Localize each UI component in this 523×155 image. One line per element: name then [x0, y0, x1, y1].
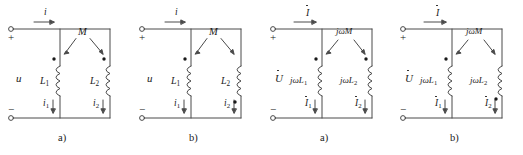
input-current-label: I [436, 8, 439, 18]
coil2-label: L2 [90, 76, 99, 88]
branch2-current-label: I2 [355, 99, 362, 110]
circuit-phasor-domain-b: I + − U jωM jωL1 jωL2 I1 I2 b) [392, 0, 523, 155]
terminal-bottom-circle [140, 116, 145, 121]
dot-marker-coil1 [314, 57, 317, 60]
mutual-inductance-label: jωM [336, 27, 352, 36]
coil2-label: L2 [221, 76, 230, 88]
dot-marker-coil1 [444, 57, 447, 60]
terminal-bottom-circle [9, 116, 14, 121]
branch2-current-label: I2 [485, 99, 492, 110]
input-current-label: I [306, 8, 309, 18]
branch1-current-label: I1 [305, 99, 312, 110]
dot-marker-coil2 [364, 57, 367, 60]
input-current-label: i [44, 8, 47, 18]
polarity-plus-label: + [270, 32, 276, 43]
polarity-minus-label: − [270, 104, 276, 115]
input-current-label: i [175, 8, 178, 18]
source-voltage-label: u [147, 73, 153, 84]
polarity-plus-label: + [139, 32, 145, 43]
terminal-bottom-circle [401, 116, 406, 121]
dot-marker-coil1 [183, 57, 186, 60]
mutual-inductance-label: M [78, 27, 87, 38]
coil1-label: jωL1 [290, 76, 307, 86]
coil2-label: jωL2 [470, 76, 487, 86]
circuit-caption: b) [450, 133, 459, 144]
mutual-inductance-label: jωM [466, 27, 482, 36]
polarity-plus-label: + [8, 32, 14, 43]
branch1-current-label: I1 [435, 99, 442, 110]
circuit-time-domain-a: i + − u M L1 L2 i1 i2 a) [0, 0, 131, 155]
circuit-caption: a) [58, 133, 66, 144]
circuit-caption: a) [320, 133, 328, 144]
dot-marker-coil1 [52, 57, 55, 60]
circuit-time-domain-b: i + − u M L1 L2 i1 i2 b) [131, 0, 262, 155]
polarity-plus-label: + [400, 32, 406, 43]
polarity-minus-label: − [8, 104, 14, 115]
terminal-bottom-circle [271, 116, 276, 121]
branch2-current-label: i2 [93, 99, 99, 110]
polarity-minus-label: − [139, 104, 145, 115]
dot-marker-coil2 [233, 100, 236, 103]
source-voltage-label: u [16, 73, 22, 84]
coupled-inductor-figure: i + − u M L1 L2 i1 i2 a) [0, 0, 523, 155]
dot-marker-coil2 [494, 97, 497, 100]
branch2-current-label: i2 [224, 99, 230, 110]
coil1-label: jωL1 [420, 76, 437, 86]
circuit-phasor-domain-a: I + − U jωM jωL1 jωL2 I1 I2 a) [262, 0, 393, 155]
source-voltage-label: U [275, 73, 283, 84]
branch1-current-label: i1 [43, 99, 49, 110]
polarity-minus-label: − [400, 104, 406, 115]
source-voltage-label: U [405, 73, 413, 84]
coil1-label: L1 [171, 76, 180, 88]
dot-marker-coil2 [102, 57, 105, 60]
coil2-label: jωL2 [340, 76, 357, 86]
branch1-current-label: i1 [174, 99, 180, 110]
coil1-label: L1 [40, 76, 49, 88]
mutual-inductance-label: M [209, 27, 218, 38]
circuit-caption: b) [189, 133, 198, 144]
